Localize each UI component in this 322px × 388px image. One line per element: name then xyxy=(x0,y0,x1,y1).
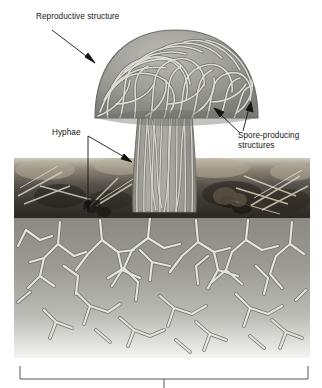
bottom-bracket xyxy=(20,366,308,388)
label-spore-producing-structures: Spore-producing structures xyxy=(238,131,308,151)
leader-reproductive xyxy=(52,30,95,63)
fungus-structure-figure xyxy=(0,0,322,388)
label-reproductive-structure: Reproductive structure xyxy=(36,12,119,22)
label-spore-line1: Spore-producing xyxy=(238,131,308,141)
label-spore-line2: structures xyxy=(238,141,308,151)
label-hyphae: Hyphae xyxy=(52,128,81,138)
fruiting-body-cap xyxy=(95,30,258,126)
